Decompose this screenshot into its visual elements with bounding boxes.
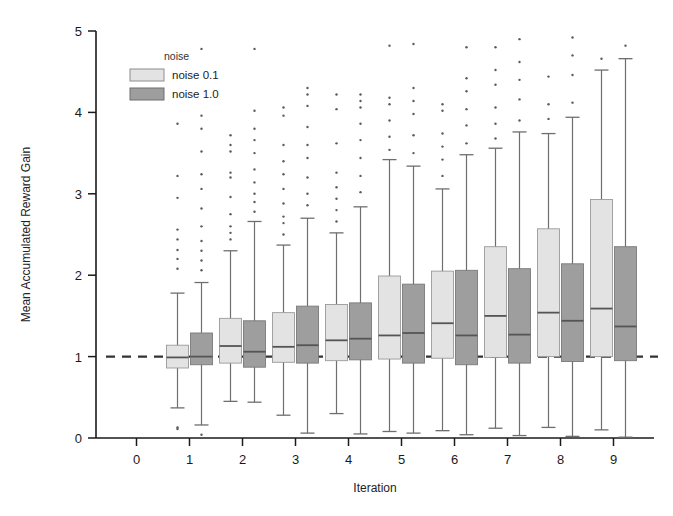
outlier-point [359, 175, 361, 177]
outlier-point [176, 238, 178, 240]
outlier-point [306, 157, 308, 159]
outlier-point [282, 106, 284, 108]
outlier-point [494, 123, 496, 125]
outlier-point [253, 181, 255, 183]
outlier-point [176, 258, 178, 260]
outlier-point [518, 119, 520, 121]
outlier-point [335, 186, 337, 188]
outlier-point [518, 98, 520, 100]
box-plot-noise-0-1-it6 [432, 103, 454, 431]
outlier-point [282, 233, 284, 235]
outlier-point [176, 267, 178, 269]
outlier-point [253, 168, 255, 170]
outlier-point [494, 69, 496, 71]
box-plot-noise-1-0-it3 [297, 87, 319, 433]
outlier-point [200, 48, 202, 50]
outlier-point [412, 113, 414, 115]
box-rect [432, 271, 454, 358]
outlier-point [359, 100, 361, 102]
outlier-point [306, 105, 308, 107]
outlier-point [229, 196, 231, 198]
outlier-point [359, 191, 361, 193]
outlier-point [412, 134, 414, 136]
y-tick-label: 0 [75, 431, 82, 446]
legend-label-noise-0-1: noise 0.1 [172, 69, 219, 81]
outlier-point [335, 142, 337, 144]
box-rect [591, 199, 613, 356]
box-rect [220, 318, 242, 363]
outlier-point [388, 97, 390, 99]
x-tick-label: 8 [557, 452, 564, 467]
legend-swatch-noise-1-0 [130, 88, 164, 100]
y-tick-label: 1 [75, 350, 82, 365]
outlier-point [200, 225, 202, 227]
outlier-point [306, 126, 308, 128]
box-rect [562, 264, 584, 362]
box-plot-chart: 0123450123456789IterationMean Accumulate… [0, 0, 673, 516]
outlier-point [465, 124, 467, 126]
outlier-point [441, 132, 443, 134]
outlier-point [176, 249, 178, 251]
outlier-point [253, 110, 255, 112]
outlier-point [306, 87, 308, 89]
outlier-point [282, 202, 284, 204]
outlier-point [518, 61, 520, 63]
outlier-point [335, 93, 337, 95]
outlier-point [571, 54, 573, 56]
outlier-point [176, 426, 178, 428]
outlier-point [518, 79, 520, 81]
box-plot-noise-0-1-it7 [485, 46, 507, 428]
box-rect [538, 229, 560, 357]
box-rect [244, 321, 266, 367]
outlier-point [465, 142, 467, 144]
outlier-point [282, 114, 284, 116]
box-plot-noise-0-1-it5 [379, 44, 401, 431]
box-plot-noise-1-0-it1 [191, 48, 213, 436]
outlier-point [282, 222, 284, 224]
x-tick-label: 4 [345, 452, 352, 467]
outlier-point [200, 207, 202, 209]
x-tick-label: 0 [133, 452, 140, 467]
outlier-point [571, 74, 573, 76]
outlier-point [571, 101, 573, 103]
y-axis-title: Mean Accumulated Reward Gain [19, 147, 33, 322]
outlier-point [253, 211, 255, 213]
outlier-point [518, 38, 520, 40]
outlier-point [465, 77, 467, 79]
y-tick-label: 2 [75, 268, 82, 283]
box-rect [509, 269, 531, 363]
outlier-point [253, 48, 255, 50]
outlier-point [253, 127, 255, 129]
outlier-point [306, 204, 308, 206]
y-tick-label: 5 [75, 24, 82, 39]
outlier-point [412, 87, 414, 89]
box-plot-noise-0-1-it2 [220, 134, 242, 401]
outlier-point [465, 90, 467, 92]
outlier-point [200, 150, 202, 152]
outlier-point [335, 108, 337, 110]
box-plot-noise-0-1-it3 [273, 106, 295, 415]
outlier-point [306, 176, 308, 178]
box-rect [379, 276, 401, 359]
outlier-point [441, 175, 443, 177]
outlier-point [465, 46, 467, 48]
x-tick-label: 1 [186, 452, 193, 467]
outlier-point [200, 240, 202, 242]
box-plot-noise-1-0-it4 [350, 93, 372, 434]
box-plot-noise-1-0-it7 [509, 38, 531, 436]
box-plot-noise-1-0-it9 [615, 44, 637, 437]
outlier-point [200, 250, 202, 252]
outlier-point [441, 110, 443, 112]
box-rect [191, 333, 213, 365]
outlier-point [200, 173, 202, 175]
outlier-point [229, 225, 231, 227]
outlier-point [253, 152, 255, 154]
x-tick-label: 5 [398, 452, 405, 467]
outlier-point [229, 144, 231, 146]
outlier-point [200, 188, 202, 190]
outlier-point [494, 137, 496, 139]
box-plot-noise-0-1-it1 [167, 123, 189, 431]
outlier-point [441, 145, 443, 147]
x-tick-label: 9 [610, 452, 617, 467]
box-plot-noise-1-0-it8 [562, 36, 584, 436]
